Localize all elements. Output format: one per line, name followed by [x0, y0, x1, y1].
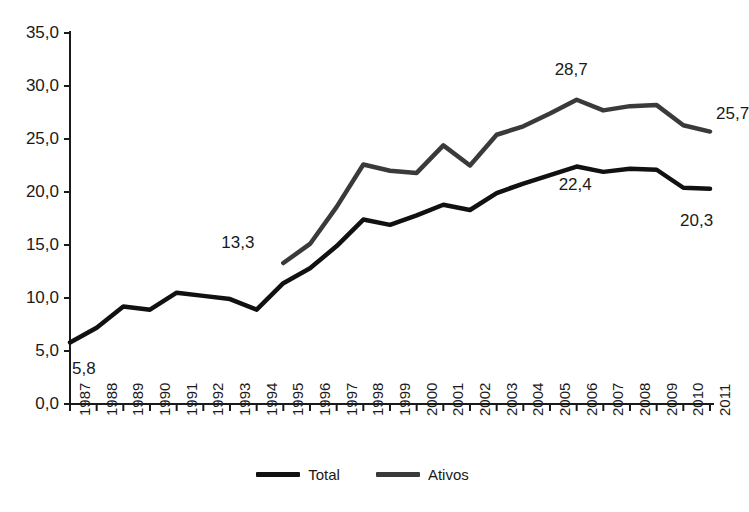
x-axis-tick-label: 1991 — [183, 383, 200, 416]
chart-legend: TotalAtivos — [0, 466, 725, 483]
x-axis-tick-label: 1997 — [343, 383, 360, 416]
legend-item-ativos[interactable]: Ativos — [376, 466, 469, 483]
x-axis-tick-label: 1992 — [209, 383, 226, 416]
x-axis-tick-label: 1998 — [369, 383, 386, 416]
legend-line-swatch-icon — [256, 472, 300, 477]
y-axis-tick-label: 20,0 — [8, 182, 59, 202]
y-axis-tick-label: 0,0 — [8, 394, 59, 414]
y-axis-tick-label: 10,0 — [8, 288, 59, 308]
data-point-label: 13,3 — [221, 233, 254, 253]
y-axis-tick-label: 5,0 — [8, 341, 59, 361]
x-axis-tick-label: 2008 — [636, 383, 653, 416]
y-axis-tick-label: 25,0 — [8, 129, 59, 149]
x-axis-tick-label: 2005 — [556, 383, 573, 416]
data-point-label: 20,3 — [680, 211, 713, 231]
x-axis-tick-label: 2011 — [716, 384, 733, 416]
x-axis-tick-label: 1990 — [156, 383, 173, 416]
y-axis-tick-label: 15,0 — [8, 235, 59, 255]
x-axis-tick-label: 1988 — [103, 383, 120, 416]
data-point-label: 5,8 — [72, 359, 96, 379]
legend-label: Ativos — [428, 466, 469, 483]
x-axis-tick-label: 1987 — [76, 383, 93, 416]
x-axis-tick-label: 1996 — [316, 383, 333, 416]
legend-item-total[interactable]: Total — [256, 466, 340, 483]
x-axis-tick-label: 1999 — [396, 383, 413, 416]
y-axis-tick-label: 35,0 — [8, 23, 59, 43]
axes-layer — [64, 31, 714, 411]
x-axis-tick-label: 2006 — [583, 383, 600, 416]
x-axis-tick-label: 1993 — [236, 383, 253, 416]
legend-line-swatch-icon — [376, 472, 420, 477]
x-axis-tick-label: 2001 — [449, 383, 466, 416]
x-axis-tick-label: 2000 — [423, 383, 440, 416]
legend-label: Total — [308, 466, 340, 483]
x-axis-tick-label: 1994 — [263, 383, 280, 416]
x-axis-tick-label: 1989 — [129, 383, 146, 416]
data-point-label: 25,7 — [716, 104, 749, 124]
x-axis-tick-label: 2007 — [609, 383, 626, 416]
x-axis-tick-label: 1995 — [289, 383, 306, 416]
x-axis-tick-label: 2003 — [503, 383, 520, 416]
x-axis-tick-label: 2002 — [476, 383, 493, 416]
data-point-label: 28,7 — [555, 60, 588, 80]
x-axis-tick-label: 2004 — [529, 383, 546, 416]
series-line-total — [70, 167, 710, 343]
y-axis-tick-label: 30,0 — [8, 76, 59, 96]
data-point-label: 22,4 — [559, 175, 592, 195]
x-axis-tick-label: 2009 — [663, 383, 680, 416]
x-axis-tick-label: 2010 — [689, 383, 706, 416]
series-layer — [70, 100, 710, 343]
